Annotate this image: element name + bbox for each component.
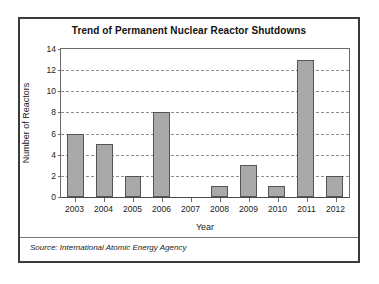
x-axis-tick-label: 2003 bbox=[60, 204, 89, 214]
x-axis-tick-mark bbox=[104, 198, 105, 202]
source-note: Source: International Atomic Energy Agen… bbox=[30, 243, 186, 252]
bar-2009[interactable] bbox=[240, 165, 257, 197]
y-axis-tick-label: 0 bbox=[51, 192, 56, 202]
x-axis-tick-label: 2008 bbox=[205, 204, 234, 214]
x-axis-tick-labels: 2003200420052006200720082009201020112012 bbox=[60, 198, 350, 214]
x-axis-tick-mark bbox=[307, 198, 308, 202]
x-axis-tick: 2004 bbox=[89, 198, 118, 214]
x-axis-tick: 2003 bbox=[60, 198, 89, 214]
x-axis-tick-mark bbox=[249, 198, 250, 202]
x-axis-tick-label: 2009 bbox=[234, 204, 263, 214]
chart-figure-frame: Trend of Permanent Nuclear Reactor Shutd… bbox=[18, 17, 360, 263]
x-axis-tick-mark bbox=[162, 198, 163, 202]
bar-slot bbox=[234, 49, 263, 197]
x-axis-tick-label: 2006 bbox=[147, 204, 176, 214]
x-axis-tick-mark bbox=[336, 198, 337, 202]
x-axis-title: Year bbox=[60, 222, 350, 232]
x-axis-tick: 2005 bbox=[118, 198, 147, 214]
y-axis-tick-label: 12 bbox=[47, 65, 56, 75]
plot-wrapper: Number of Reactors 02468101214 200320042… bbox=[20, 19, 358, 261]
bar-2012[interactable] bbox=[326, 176, 343, 197]
x-axis-tick-label: 2004 bbox=[89, 204, 118, 214]
bar-2008[interactable] bbox=[211, 186, 228, 197]
bar-2003[interactable] bbox=[67, 134, 84, 197]
x-axis-tick-label: 2007 bbox=[176, 204, 205, 214]
x-axis-tick-mark bbox=[75, 198, 76, 202]
bar-slot bbox=[61, 49, 90, 197]
bar-series bbox=[61, 49, 349, 197]
x-axis-tick-mark bbox=[133, 198, 134, 202]
bar-2011[interactable] bbox=[297, 60, 314, 197]
x-axis-tick-mark bbox=[278, 198, 279, 202]
y-axis-tick-label: 10 bbox=[47, 86, 56, 96]
x-axis-tick-label: 2005 bbox=[118, 204, 147, 214]
y-axis-tick-label: 6 bbox=[51, 129, 56, 139]
bar-slot bbox=[119, 49, 148, 197]
bar-slot bbox=[147, 49, 176, 197]
bar-2010[interactable] bbox=[268, 186, 285, 197]
bar-2004[interactable] bbox=[96, 144, 113, 197]
y-axis-tick-label: 8 bbox=[51, 107, 56, 117]
x-axis-tick-mark bbox=[191, 198, 192, 202]
source-divider bbox=[20, 237, 358, 238]
bar-slot bbox=[291, 49, 320, 197]
bar-slot bbox=[176, 49, 205, 197]
y-axis-tick-label: 2 bbox=[51, 171, 56, 181]
bar-slot bbox=[263, 49, 292, 197]
bar-2006[interactable] bbox=[153, 112, 170, 197]
x-axis-tick: 2007 bbox=[176, 198, 205, 214]
x-axis-tick-label: 2010 bbox=[263, 204, 292, 214]
x-axis-tick: 2008 bbox=[205, 198, 234, 214]
y-axis-tick-label: 14 bbox=[47, 44, 56, 54]
x-axis-tick: 2009 bbox=[234, 198, 263, 214]
x-axis-tick: 2011 bbox=[292, 198, 321, 214]
plot-area: 02468101214 bbox=[60, 48, 350, 198]
x-axis-tick: 2006 bbox=[147, 198, 176, 214]
x-axis-tick-mark bbox=[220, 198, 221, 202]
bar-slot bbox=[90, 49, 119, 197]
y-axis-title: Number of Reactors bbox=[21, 83, 31, 164]
x-axis-tick: 2010 bbox=[263, 198, 292, 214]
bar-slot bbox=[320, 49, 349, 197]
y-axis-tick-label: 4 bbox=[51, 150, 56, 160]
x-axis-tick: 2012 bbox=[321, 198, 350, 214]
x-axis-tick-label: 2011 bbox=[292, 204, 321, 214]
bar-2005[interactable] bbox=[125, 176, 142, 197]
bar-slot bbox=[205, 49, 234, 197]
x-axis-tick-label: 2012 bbox=[321, 204, 350, 214]
